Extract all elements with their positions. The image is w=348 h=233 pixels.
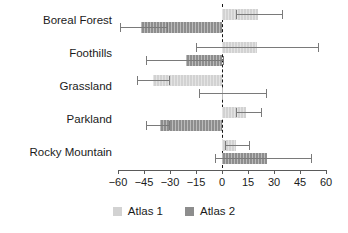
error-bar-cap-high bbox=[169, 121, 170, 130]
x-axis-tick-label: −15 bbox=[187, 176, 206, 188]
x-axis-tick-label: −30 bbox=[161, 176, 180, 188]
x-axis-tick-label: 60 bbox=[320, 176, 332, 188]
bar-group bbox=[118, 37, 326, 70]
x-axis: −60−45−30−15015304560 bbox=[118, 170, 326, 192]
error-bar-line bbox=[146, 125, 170, 126]
error-bar-line bbox=[199, 93, 267, 94]
error-bar-cap-high bbox=[169, 76, 170, 85]
bar-group bbox=[118, 135, 326, 168]
error-bar-cap-high bbox=[223, 56, 224, 65]
category-label: Boreal Forest bbox=[0, 14, 112, 26]
x-axis-tick-label: 30 bbox=[268, 176, 280, 188]
error-bar-cap-high bbox=[282, 10, 283, 19]
error-bar-line bbox=[236, 112, 262, 113]
error-bar-cap-low bbox=[196, 43, 197, 52]
error-bar-cap-low bbox=[146, 121, 147, 130]
legend-label: Atlas 1 bbox=[128, 205, 163, 217]
category-label: Rocky Mountain bbox=[0, 146, 112, 158]
x-axis-tick-label: 15 bbox=[242, 176, 254, 188]
error-bar-cap-low bbox=[236, 108, 237, 117]
error-bar-cap-low bbox=[199, 89, 200, 98]
x-axis-tick-label: 45 bbox=[294, 176, 306, 188]
error-bar-cap-high bbox=[311, 154, 312, 163]
chart-legend: Atlas 1Atlas 2 bbox=[0, 205, 348, 217]
category-label: Foothills bbox=[0, 47, 112, 59]
error-bar-line bbox=[225, 145, 249, 146]
error-bar-cap-low bbox=[137, 76, 138, 85]
error-bar-atlas-1 bbox=[225, 141, 249, 150]
x-axis-tick bbox=[144, 170, 145, 174]
x-axis-tick bbox=[326, 170, 327, 174]
x-axis-tick bbox=[196, 170, 197, 174]
error-bar-line bbox=[120, 27, 169, 28]
x-axis-tick bbox=[170, 170, 171, 174]
legend-swatch bbox=[185, 207, 194, 216]
error-bar-atlas-2 bbox=[146, 121, 170, 130]
bar-chart: Boreal ForestFoothillsGrasslandParklandR… bbox=[0, 0, 348, 233]
error-bar-line bbox=[137, 80, 170, 81]
error-bar-line bbox=[146, 60, 224, 61]
error-bar-cap-high bbox=[167, 23, 168, 32]
error-bar-line bbox=[196, 47, 319, 48]
error-bar-cap-low bbox=[225, 141, 226, 150]
error-bar-atlas-2 bbox=[120, 23, 169, 32]
error-bar-atlas-2 bbox=[146, 56, 224, 65]
bar-group bbox=[118, 70, 326, 103]
error-bar-atlas-1 bbox=[236, 10, 283, 19]
error-bar-cap-low bbox=[146, 56, 147, 65]
error-bar-atlas-2 bbox=[215, 154, 312, 163]
category-label: Grassland bbox=[0, 80, 112, 92]
x-axis-tick-label: 0 bbox=[219, 176, 225, 188]
x-axis-tick bbox=[274, 170, 275, 174]
error-bar-cap-low bbox=[120, 23, 121, 32]
error-bar-cap-low bbox=[236, 10, 237, 19]
x-axis-tick-label: −60 bbox=[109, 176, 128, 188]
legend-label: Atlas 2 bbox=[200, 205, 235, 217]
error-bar-line bbox=[215, 158, 312, 159]
x-axis-tick bbox=[300, 170, 301, 174]
legend-item-atlas-1[interactable]: Atlas 1 bbox=[113, 205, 163, 217]
x-axis-tick bbox=[118, 170, 119, 174]
error-bar-atlas-1 bbox=[137, 76, 170, 85]
error-bar-line bbox=[236, 14, 283, 15]
error-bar-atlas-2 bbox=[199, 89, 267, 98]
plot-area bbox=[118, 4, 326, 168]
x-axis-tick-label: −45 bbox=[135, 176, 154, 188]
error-bar-cap-low bbox=[215, 154, 216, 163]
category-label: Parkland bbox=[0, 113, 112, 125]
error-bar-cap-high bbox=[266, 89, 267, 98]
error-bar-atlas-1 bbox=[236, 108, 262, 117]
x-axis-tick bbox=[222, 170, 223, 174]
error-bar-cap-high bbox=[249, 141, 250, 150]
bar-group bbox=[118, 102, 326, 135]
error-bar-cap-high bbox=[318, 43, 319, 52]
bar-group bbox=[118, 4, 326, 37]
error-bar-atlas-1 bbox=[196, 43, 319, 52]
x-axis-tick bbox=[248, 170, 249, 174]
legend-swatch bbox=[113, 207, 122, 216]
legend-item-atlas-2[interactable]: Atlas 2 bbox=[185, 205, 235, 217]
error-bar-cap-high bbox=[261, 108, 262, 117]
category-axis: Boreal ForestFoothillsGrasslandParklandR… bbox=[0, 0, 112, 168]
